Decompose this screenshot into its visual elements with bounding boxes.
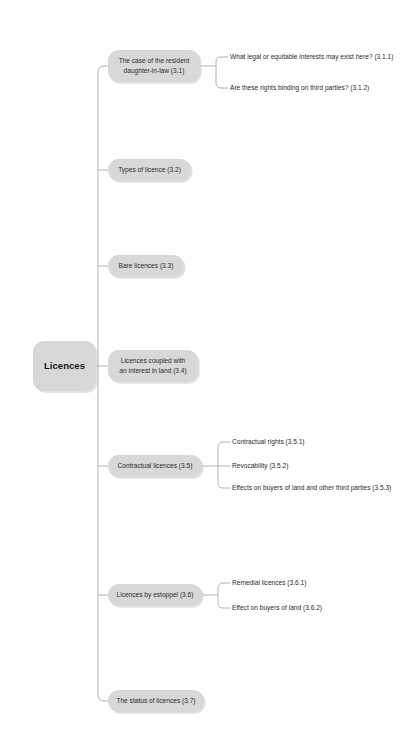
leaf-node-label[interactable]: Effect on buyers of land (3.6.2) xyxy=(232,604,322,612)
branch-node[interactable]: Contractual licences (3.5) xyxy=(108,455,204,479)
branch-node-label: The status of licences (3.7) xyxy=(116,697,195,705)
leaf-node-label[interactable]: Revocability (3.5.2) xyxy=(232,462,288,470)
leaf-node-label[interactable]: Are these rights binding on third partie… xyxy=(230,84,369,92)
branch-node[interactable]: The status of licences (3.7) xyxy=(108,690,206,714)
branch-node-label: Types of licence (3.2) xyxy=(118,166,181,174)
root-node-label: Licences xyxy=(44,360,85,371)
leaf-node-label[interactable]: Contractual rights (3.5.1) xyxy=(232,438,305,446)
branch-node[interactable]: Licences coupled withan interest in land… xyxy=(108,350,200,384)
branch-node[interactable]: Bare licences (3.3) xyxy=(108,255,186,279)
branch-node[interactable]: The case of the residentdaughter-in-law … xyxy=(108,50,202,84)
leaf-node-label[interactable]: What legal or equitable interests may ex… xyxy=(230,53,393,61)
child-spine-connector xyxy=(216,57,221,88)
branch-node-label: daughter-in-law (3.1) xyxy=(124,67,185,75)
leaf-node-label[interactable]: Effects on buyers of land and other thir… xyxy=(232,484,391,492)
child-spine-connector xyxy=(218,442,223,488)
branch-node-label: Licences by estoppel (3.6) xyxy=(117,591,194,599)
mind-map-diagram: What legal or equitable interests may ex… xyxy=(0,0,410,732)
leaf-node-label[interactable]: Remedial licences (3.6.1) xyxy=(232,579,306,587)
branch-node-label: Licences coupled with xyxy=(121,357,186,365)
root-node[interactable]: Licences xyxy=(33,341,98,393)
main-trunk-connector xyxy=(98,66,104,701)
node-layer: What legal or equitable interests may ex… xyxy=(33,50,393,714)
child-spine-connector xyxy=(218,583,223,608)
branch-node-label: Contractual licences (3.5) xyxy=(118,462,193,470)
branch-node-label: Bare licences (3.3) xyxy=(119,262,174,270)
branch-node[interactable]: Licences by estoppel (3.6) xyxy=(108,584,204,608)
branch-node[interactable]: Types of licence (3.2) xyxy=(108,159,193,183)
branch-node-label: The case of the resident xyxy=(119,57,190,64)
branch-node-label: an interest in land (3.4) xyxy=(119,367,186,375)
